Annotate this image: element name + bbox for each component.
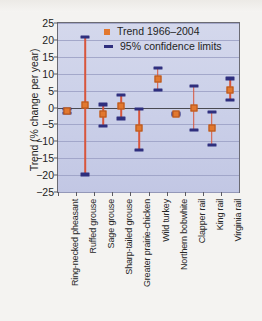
- trend-marker[interactable]: [208, 124, 215, 131]
- trend-marker[interactable]: [64, 107, 71, 114]
- confidence-upper-cap: [117, 93, 126, 96]
- x-category-label: Wild turkey: [161, 199, 171, 242]
- dash-marker-icon: [104, 45, 113, 48]
- x-tick-mark: [203, 192, 204, 196]
- trend-marker[interactable]: [226, 86, 233, 93]
- y-tick-label: −15: [36, 152, 54, 164]
- x-tick-mark: [76, 192, 77, 196]
- legend-label-trend: Trend 1966–2004: [117, 24, 200, 39]
- y-tick-label: −5: [42, 118, 54, 130]
- trend-marker[interactable]: [136, 125, 143, 132]
- x-category-label: King rail: [215, 199, 225, 230]
- legend-entry-trend: Trend 1966–2004: [104, 24, 222, 39]
- y-tick-mark: [54, 141, 58, 142]
- x-axis-labels: Ring-necked pheasantRuffed grouseSage gr…: [57, 199, 240, 319]
- confidence-lower-cap: [225, 98, 234, 101]
- y-axis-title: Trend (% change per year): [28, 30, 40, 190]
- confidence-upper-cap: [135, 107, 144, 110]
- confidence-upper-cap: [207, 110, 216, 113]
- y-tick-label: 20: [42, 34, 54, 46]
- confidence-upper-cap: [81, 35, 90, 38]
- y-tick-mark: [54, 158, 58, 159]
- y-tick-mark: [54, 39, 58, 40]
- y-tick-mark: [54, 56, 58, 57]
- y-tick-mark: [54, 23, 58, 24]
- y-tick-mark: [54, 73, 58, 74]
- y-tick-label: 25: [42, 17, 54, 29]
- x-category-label: Sharp-tailed grouse: [124, 199, 134, 275]
- y-tick-mark: [54, 124, 58, 125]
- x-tick-mark: [58, 192, 59, 196]
- confidence-upper-cap: [153, 67, 162, 70]
- trend-marker[interactable]: [154, 76, 161, 83]
- confidence-upper-cap: [189, 85, 198, 88]
- y-tick-mark: [54, 107, 58, 108]
- x-category-label: Ring-necked pheasant: [70, 199, 80, 286]
- x-category-label: Virginia rail: [233, 199, 243, 241]
- y-tick-label: 15: [42, 51, 54, 63]
- x-tick-mark: [112, 192, 113, 196]
- x-category-label: Ruffed grouse: [88, 199, 98, 253]
- y-tick-label: −10: [36, 135, 54, 147]
- x-tick-mark: [185, 192, 186, 196]
- x-category-label: Clapper rail: [197, 199, 207, 243]
- chart-legend: Trend 1966–2004 95% confidence limits: [104, 24, 222, 54]
- x-tick-mark: [130, 192, 131, 196]
- y-tick-mark: [54, 175, 58, 176]
- x-tick-mark: [94, 192, 95, 196]
- trend-marker[interactable]: [100, 111, 107, 118]
- confidence-lower-cap: [207, 143, 216, 146]
- figure-panel: Trend (% change per year) 2520151050−5−1…: [0, 0, 262, 321]
- y-tick-label: −25: [36, 186, 54, 198]
- confidence-upper-cap: [99, 103, 108, 106]
- trend-marker[interactable]: [172, 110, 179, 117]
- x-category-label: Sage grouse: [106, 199, 116, 248]
- confidence-lower-cap: [81, 173, 90, 176]
- x-category-label: Greater prairie-chicken: [142, 199, 152, 287]
- y-tick-label: 10: [42, 68, 54, 80]
- x-tick-mark: [149, 192, 150, 196]
- x-tick-mark: [167, 192, 168, 196]
- confidence-lower-cap: [99, 124, 108, 127]
- x-category-label: Northern bobwhite: [179, 199, 189, 270]
- confidence-lower-cap: [135, 148, 144, 151]
- x-tick-mark: [221, 192, 222, 196]
- confidence-lower-cap: [189, 129, 198, 132]
- trend-marker[interactable]: [118, 103, 125, 110]
- y-tick-label: −20: [36, 169, 54, 181]
- confidence-lower-cap: [117, 117, 126, 120]
- square-marker-icon: [104, 29, 110, 35]
- confidence-upper-cap: [225, 77, 234, 80]
- legend-entry-ci: 95% confidence limits: [104, 39, 222, 54]
- y-tick-mark: [54, 90, 58, 91]
- legend-label-ci: 95% confidence limits: [120, 39, 222, 54]
- trend-marker[interactable]: [190, 104, 197, 111]
- trend-marker[interactable]: [82, 101, 89, 108]
- confidence-lower-cap: [153, 88, 162, 91]
